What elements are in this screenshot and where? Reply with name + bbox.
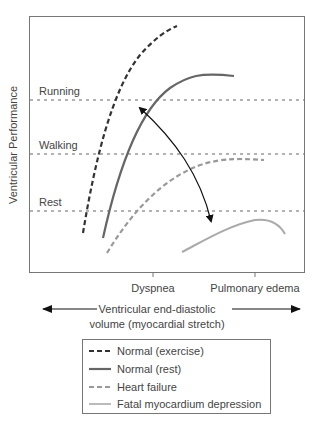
dashed-line-swatch-icon	[89, 384, 111, 390]
legend-item-normal-exercise: Normal (exercise)	[89, 343, 204, 359]
legend-label: Normal (exercise)	[117, 345, 204, 357]
tick-label-pulmonary-edema: Pulmonary edema	[210, 282, 300, 294]
series-heart-failure	[107, 159, 264, 253]
legend: Normal (exercise) Normal (rest) Heart fa…	[82, 339, 271, 414]
tick-label-dyspnea: Dyspnea	[131, 282, 175, 294]
legend-label: Normal (rest)	[117, 363, 181, 375]
legend-label: Heart failure	[117, 381, 177, 393]
rest-label: Rest	[39, 196, 62, 208]
series-fatal-myocardium-depression	[182, 220, 285, 252]
y-axis-label: Ventricular Performance	[7, 86, 19, 204]
legend-item-heart-failure: Heart failure	[89, 379, 177, 395]
legend-item-fatal-myocardium-depression: Fatal myocardium depression	[89, 396, 261, 412]
legend-label: Fatal myocardium depression	[117, 398, 261, 410]
series-normal-exercise	[83, 26, 177, 233]
series-normal-rest	[103, 75, 234, 239]
solid-line-swatch-icon	[89, 366, 111, 372]
legend-item-normal-rest: Normal (rest)	[89, 361, 181, 377]
running-label: Running	[39, 85, 80, 97]
x-axis-label-line1: Ventricular end-diastolic	[99, 303, 216, 315]
solid-line-swatch-icon	[89, 401, 111, 407]
x-axis-label-line2: volume (myocardial stretch)	[89, 318, 224, 330]
dashed-line-swatch-icon	[89, 348, 111, 354]
walking-label: Walking	[39, 139, 78, 151]
